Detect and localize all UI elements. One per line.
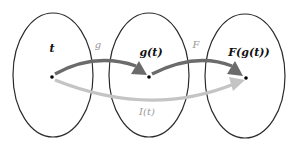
- label-F-of-g-of-t: F(g(t)): [228, 47, 269, 58]
- label-t: t: [49, 43, 54, 54]
- set-ellipse-middle: [109, 13, 189, 137]
- arrowhead-I-of-t: [229, 77, 245, 91]
- set-ellipse-codomain: [205, 14, 285, 138]
- point-g-of-t: [147, 75, 151, 79]
- label-F: F: [193, 40, 200, 50]
- arrow-g: [55, 61, 136, 74]
- arrowhead-g: [131, 61, 147, 75]
- arrow-F: [152, 61, 232, 74]
- point-t: [50, 75, 54, 79]
- label-g-of-t: g(t): [139, 47, 162, 58]
- composition-diagram: [0, 0, 293, 150]
- point-F-of-g-of-t: [244, 76, 248, 80]
- label-g: g: [95, 40, 101, 50]
- label-I-of-t: I(t): [139, 107, 155, 117]
- set-ellipse-domain: [13, 13, 93, 137]
